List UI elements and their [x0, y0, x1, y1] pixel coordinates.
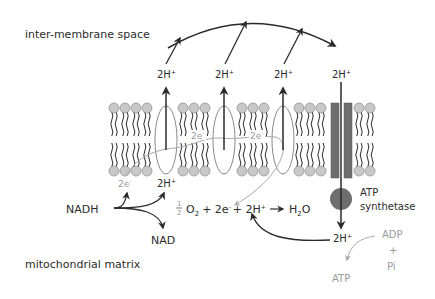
lipid-tail	[243, 112, 245, 136]
lipid-head	[294, 166, 304, 176]
lipid-tail	[307, 112, 309, 136]
electron-label-transfer-1: 2e-	[190, 129, 206, 141]
lipid-head	[120, 103, 130, 113]
lipid-tail	[144, 112, 146, 136]
lipid-head	[178, 103, 188, 113]
proton-return-arrow	[252, 214, 330, 240]
lipid-head	[120, 166, 130, 176]
nadh-to-nad-arrow	[114, 208, 163, 228]
nad-label: NAD	[151, 234, 175, 247]
lipid-tail	[133, 143, 135, 167]
lipid-head	[200, 103, 210, 113]
atp-synthase-label-line2: synthetase	[360, 201, 415, 212]
lipid-tail	[239, 112, 241, 136]
lipid-head	[189, 166, 199, 176]
lipid-tail	[367, 143, 369, 167]
lipid-tail	[307, 143, 309, 167]
lipid-head	[305, 103, 315, 113]
lipid-tail	[318, 112, 320, 136]
svg-text:H2O: H2O	[289, 203, 311, 218]
intermembrane-space-label: inter-membrane space	[25, 28, 150, 41]
lipid-tail	[243, 143, 245, 167]
lipid-tail	[265, 143, 267, 167]
proton-to-arc-arrow-3	[284, 29, 302, 64]
lipid-head	[259, 166, 269, 176]
lipid-tail	[115, 112, 117, 136]
lipid-tail	[122, 143, 124, 167]
lipid-head	[248, 103, 258, 113]
proton-to-arc-arrow-2	[225, 22, 246, 64]
lipid-tail	[356, 112, 358, 136]
nadh-label: NADH	[66, 203, 99, 216]
svg-text:2: 2	[177, 209, 181, 217]
lipid-head	[305, 166, 315, 176]
lipid-tail	[360, 143, 362, 167]
proton-label-pumped-2: 2H+	[215, 68, 234, 80]
lipid-tail	[311, 143, 313, 167]
lipid-head	[316, 166, 326, 176]
lipid-tail	[191, 143, 193, 167]
lipid-tail	[148, 112, 150, 136]
lipid-head	[109, 166, 119, 176]
proton-label-synthase-bottom: 2H+	[333, 232, 352, 244]
lipid-head	[109, 103, 119, 113]
lipid-head	[354, 166, 364, 176]
lipid-tail	[195, 143, 197, 167]
lipid-head	[248, 166, 258, 176]
lipid-tail	[322, 112, 324, 136]
lipid-tail	[265, 112, 267, 136]
lipid-head	[316, 103, 326, 113]
electron-label-transfer-2: 2e-	[249, 129, 265, 141]
lipid-tail	[356, 143, 358, 167]
lipid-tail	[184, 143, 186, 167]
lipid-head	[294, 103, 304, 113]
lipid-tail	[137, 112, 139, 136]
lipid-tail	[371, 143, 373, 167]
lipid-tail	[115, 143, 117, 167]
lipid-head	[178, 166, 188, 176]
atp-synthase-subunit-left	[331, 103, 339, 178]
proton-label-synthase-top: 2H+	[332, 68, 351, 80]
proton-label-pumped-3: 2H+	[274, 68, 293, 80]
lipid-tail	[206, 112, 208, 136]
proton-label-matrix-input: 2H+	[157, 177, 176, 189]
lipid-tail	[122, 112, 124, 136]
lipid-tail	[254, 143, 256, 167]
lipid-tail	[111, 112, 113, 136]
atp-synthase-subunit-right	[344, 103, 352, 178]
lipid-head	[354, 103, 364, 113]
lipid-tail	[111, 143, 113, 167]
lipid-head	[237, 103, 247, 113]
lipid-head	[131, 103, 141, 113]
lipid-head	[142, 103, 152, 113]
nadh-to-electron-arrow	[114, 193, 127, 208]
lipid-head	[259, 103, 269, 113]
lipid-tail	[126, 112, 128, 136]
adp-plus-label: +	[389, 245, 397, 256]
lipid-tail	[300, 112, 302, 136]
lipid-tail	[296, 112, 298, 136]
lipid-head	[365, 103, 375, 113]
electron-label-from-nadh: 2e-	[118, 177, 131, 189]
lipid-tail	[184, 112, 186, 136]
mitochondrial-matrix-label: mitochondrial matrix	[25, 258, 141, 271]
lipid-head	[200, 166, 210, 176]
lipid-tail	[144, 143, 146, 167]
lipid-tail	[250, 143, 252, 167]
lipid-tail	[367, 112, 369, 136]
lipid-tail	[322, 143, 324, 167]
pi-label: Pi	[387, 261, 396, 272]
lipid-tail	[126, 143, 128, 167]
proton-flow-arc-arrow	[168, 23, 335, 48]
lipid-tail	[296, 143, 298, 167]
lipid-tail	[137, 143, 139, 167]
lipid-tail	[261, 143, 263, 167]
lipid-tail	[311, 112, 313, 136]
adp-label: ADP	[382, 229, 403, 240]
lipid-tail	[206, 143, 208, 167]
svg-text:O2+ 2e-+ 2H+: O2+ 2e-+ 2H+	[186, 203, 266, 218]
lipid-tail	[180, 112, 182, 136]
lipid-tail	[202, 143, 204, 167]
atp-product-label: ATP	[332, 273, 350, 284]
lipid-tail	[133, 112, 135, 136]
